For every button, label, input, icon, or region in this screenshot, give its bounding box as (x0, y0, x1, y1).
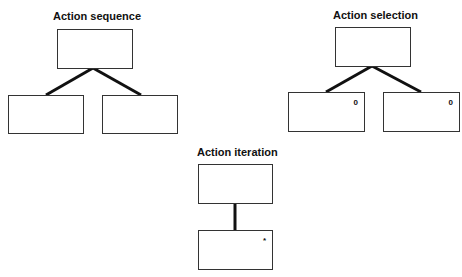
selection-connector-right (372, 66, 421, 92)
selection-child-left-mark: 0 (354, 98, 358, 107)
sequence-child-box-right (102, 95, 178, 134)
selection-title: Action selection (333, 9, 418, 21)
selection-parent-box (335, 27, 411, 67)
iteration-title: Action iteration (197, 146, 278, 158)
selection-child-box-left: 0 (288, 92, 365, 132)
sequence-connector-right (93, 68, 141, 95)
selection-connector-left (326, 66, 372, 92)
iteration-parent-box (198, 164, 273, 204)
sequence-title: Action sequence (53, 10, 141, 22)
sequence-connector-left (46, 68, 93, 95)
iteration-child-mark: * (263, 236, 266, 245)
selection-child-box-right: 0 (383, 92, 460, 132)
sequence-child-box-left (8, 95, 84, 134)
sequence-parent-box (57, 29, 133, 69)
selection-child-right-mark: 0 (449, 98, 453, 107)
iteration-child-box: * (198, 230, 273, 270)
